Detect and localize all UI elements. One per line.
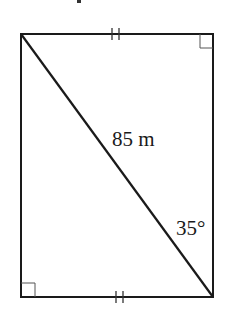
angle-label: 35°: [176, 216, 205, 240]
diagonal-length-label: 85 m: [112, 127, 155, 151]
rectangle-diagonal-diagram: 85 m 35°: [0, 0, 238, 319]
cropped-text-fragment: [77, 0, 81, 3]
right-angle-mark-bottom-left: [21, 283, 35, 297]
diagonal-line: [21, 34, 213, 297]
right-angle-mark-top-right: [200, 34, 213, 48]
